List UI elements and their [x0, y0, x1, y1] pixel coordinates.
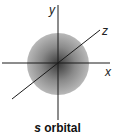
z-axis-label: z — [102, 25, 108, 37]
orbital-diagram — [0, 0, 115, 136]
caption-orbital-letter: s — [34, 121, 41, 135]
diagram-caption: s orbital — [0, 122, 115, 134]
x-axis-label: x — [105, 66, 111, 78]
caption-orbital-word: orbital — [41, 121, 81, 135]
y-axis-label: y — [49, 4, 55, 16]
